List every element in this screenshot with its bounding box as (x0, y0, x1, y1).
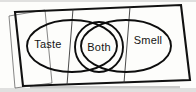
taste-label: Taste (34, 38, 61, 50)
smell-label: Smell (134, 34, 163, 46)
scan-edge-smudge-band (30, 86, 180, 88)
scan-edge-smudge-bottom (0, 88, 196, 92)
venn-diagram-figure: Taste Both Smell (0, 0, 196, 92)
both-label: Both (87, 41, 110, 53)
venn-diagram-canvas: Taste Both Smell (0, 0, 196, 92)
scan-edge-smudge-top (0, 0, 196, 2)
